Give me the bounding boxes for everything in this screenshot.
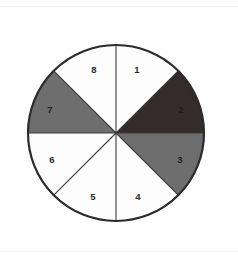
sector-label-4: 4 xyxy=(135,191,141,202)
sector-label-2: 2 xyxy=(178,104,183,115)
sector-label-8: 8 xyxy=(91,64,96,75)
sector-label-3: 3 xyxy=(177,154,182,165)
sector-label-6: 6 xyxy=(49,154,54,165)
pie-chart: 12345678 xyxy=(0,0,238,256)
figure-canvas: 12345678 xyxy=(0,0,238,256)
sector-label-1: 1 xyxy=(134,64,140,75)
sector-label-7: 7 xyxy=(47,104,52,115)
sector-label-5: 5 xyxy=(90,191,96,202)
